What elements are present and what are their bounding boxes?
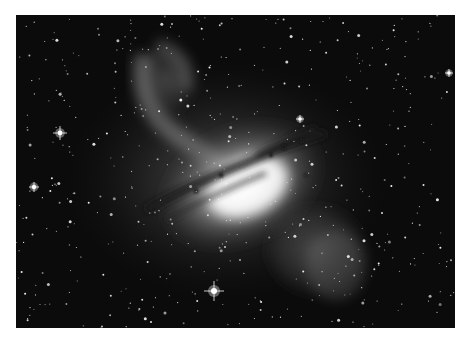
galaxy-photograph: [16, 15, 455, 328]
galaxy-render: [16, 15, 455, 328]
